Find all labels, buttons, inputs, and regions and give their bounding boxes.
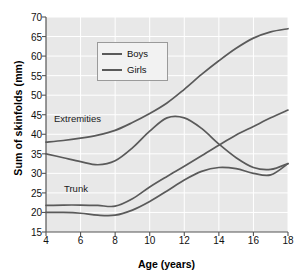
legend-item-girls: Girls (102, 62, 147, 78)
annotation-trunk: Trunk (64, 183, 88, 194)
chart-figure: Sum of skinfolds (mm) Age (years) 70 65 … (0, 0, 303, 279)
legend-line-icon (102, 69, 122, 71)
legend-item-boys: Boys (102, 46, 148, 62)
legend-label: Boys (127, 49, 148, 59)
legend: Boys Girls (97, 42, 168, 81)
legend-line-icon (102, 53, 122, 55)
legend-label: Girls (127, 65, 147, 75)
annotation-extremities: Extremities (54, 113, 101, 124)
